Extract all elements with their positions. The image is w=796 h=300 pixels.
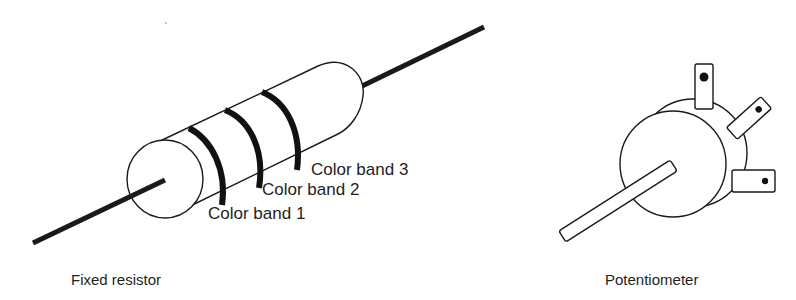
diagram-canvas [0,0,796,300]
label-color-band-3: Color band 3 [311,161,408,178]
caption-potentiometer: Potentiometer [605,272,698,287]
caption-fixed-resistor: Fixed resistor [71,272,161,287]
potentiometer [559,64,775,242]
label-color-band-1: Color band 1 [208,205,305,222]
pot-terminal-right [732,170,775,192]
pot-terminal-top [695,64,713,109]
resistor-end-cap [127,140,203,218]
label-color-band-2: Color band 2 [262,181,359,198]
resistor-right-lead [358,27,484,88]
